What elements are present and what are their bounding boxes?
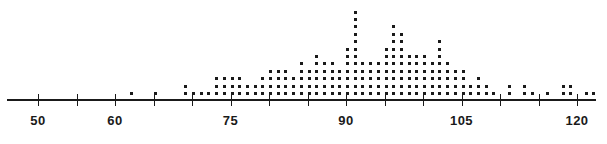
data-dot xyxy=(184,85,187,88)
data-dot xyxy=(284,85,287,88)
data-dot xyxy=(462,92,465,95)
data-dot xyxy=(284,77,287,80)
data-dot xyxy=(231,92,234,95)
data-dot xyxy=(585,92,588,95)
data-dot xyxy=(431,62,434,65)
data-dot xyxy=(223,92,226,95)
data-dot xyxy=(331,85,334,88)
data-dot xyxy=(385,77,388,80)
data-dot xyxy=(354,55,357,58)
data-dot xyxy=(254,85,257,88)
data-dot xyxy=(300,77,303,80)
data-dot xyxy=(331,62,334,65)
x-axis-tick xyxy=(269,94,270,106)
data-dot xyxy=(400,77,403,80)
data-dot xyxy=(392,77,395,80)
data-dot xyxy=(354,48,357,51)
data-dot xyxy=(415,77,418,80)
data-dot xyxy=(408,70,411,73)
data-dot xyxy=(385,48,388,51)
data-dot xyxy=(385,62,388,65)
data-dot xyxy=(254,92,257,95)
data-dot xyxy=(408,77,411,80)
data-dot xyxy=(184,92,187,95)
data-dot xyxy=(346,70,349,73)
data-dot xyxy=(546,92,549,95)
data-dot xyxy=(331,77,334,80)
data-dot xyxy=(315,55,318,58)
data-dot xyxy=(377,92,380,95)
data-dot xyxy=(300,85,303,88)
data-dot xyxy=(308,70,311,73)
data-dot xyxy=(385,55,388,58)
data-dot xyxy=(338,70,341,73)
x-axis-tick xyxy=(308,94,309,106)
data-dot xyxy=(377,62,380,65)
data-dot xyxy=(392,55,395,58)
x-axis-tick xyxy=(38,94,39,106)
data-dot xyxy=(408,55,411,58)
data-dot xyxy=(277,77,280,80)
data-dot xyxy=(315,62,318,65)
data-dot xyxy=(438,40,441,43)
data-dot xyxy=(354,85,357,88)
data-dot xyxy=(346,92,349,95)
data-dot xyxy=(315,70,318,73)
data-dot xyxy=(446,62,449,65)
data-dot xyxy=(423,92,426,95)
data-dot xyxy=(423,62,426,65)
data-dot xyxy=(408,92,411,95)
data-dot xyxy=(431,70,434,73)
data-dot xyxy=(284,92,287,95)
x-axis-tick xyxy=(231,94,232,106)
data-dot xyxy=(415,55,418,58)
x-axis-tick-label: 75 xyxy=(223,113,238,128)
x-axis-tick xyxy=(500,94,501,106)
data-dot xyxy=(446,77,449,80)
data-dot xyxy=(569,92,572,95)
x-axis-tick-label: 50 xyxy=(30,113,45,128)
data-dot xyxy=(323,92,326,95)
data-dot xyxy=(369,70,372,73)
data-dot xyxy=(284,70,287,73)
x-axis-tick-label: 60 xyxy=(107,113,122,128)
data-dot xyxy=(446,70,449,73)
data-dot xyxy=(207,92,210,95)
data-dot xyxy=(400,48,403,51)
data-dot xyxy=(385,85,388,88)
data-dot xyxy=(400,55,403,58)
data-dot xyxy=(408,62,411,65)
data-dot xyxy=(361,85,364,88)
x-axis-tick xyxy=(192,94,193,106)
data-dot xyxy=(400,70,403,73)
data-dot xyxy=(238,77,241,80)
data-dot xyxy=(323,70,326,73)
data-dot xyxy=(415,62,418,65)
data-dot xyxy=(369,92,372,95)
x-axis-tick xyxy=(462,94,463,106)
data-dot xyxy=(323,77,326,80)
data-dot xyxy=(192,92,195,95)
data-dot xyxy=(385,92,388,95)
data-dot xyxy=(354,77,357,80)
data-dot xyxy=(300,92,303,95)
data-dot xyxy=(531,92,534,95)
data-dot xyxy=(415,85,418,88)
data-dot xyxy=(462,77,465,80)
data-dot xyxy=(438,85,441,88)
data-dot xyxy=(354,92,357,95)
data-dot xyxy=(261,77,264,80)
data-dot xyxy=(469,92,472,95)
data-dot xyxy=(269,92,272,95)
data-dot xyxy=(438,48,441,51)
data-dot xyxy=(300,70,303,73)
data-dot xyxy=(454,70,457,73)
data-dot xyxy=(431,85,434,88)
data-dot xyxy=(485,92,488,95)
data-dot xyxy=(277,70,280,73)
data-dot xyxy=(438,62,441,65)
data-dot xyxy=(492,92,495,95)
data-dot xyxy=(438,92,441,95)
data-dot xyxy=(569,85,572,88)
x-axis-tick-label: 120 xyxy=(565,113,588,128)
